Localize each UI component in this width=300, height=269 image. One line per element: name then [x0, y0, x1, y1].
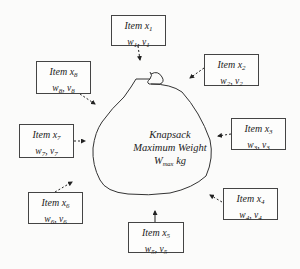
- item-box-1: Item x1 w1, v1: [111, 15, 166, 46]
- item-box-4: Item x4 w4, v4: [223, 188, 278, 220]
- item-box-7: Item x7 w7, v7: [19, 124, 74, 158]
- knapsack-diagram: Knapsack Maximum Weight Wmax kg Item x1 …: [0, 0, 300, 269]
- item-box-3: Item x3 w3, v3: [231, 118, 286, 150]
- item-box-8: Item x8 w8, v8: [36, 61, 91, 94]
- knapsack-capacity-value: Wmax kg: [120, 154, 220, 170]
- knapsack-title: Knapsack: [120, 128, 220, 141]
- arrow-item-2: [190, 68, 204, 78]
- knapsack-capacity-label: Maximum Weight: [120, 141, 220, 154]
- arrow-item-6: [55, 182, 72, 192]
- item-box-6: Item x6 w6, v6: [28, 192, 83, 224]
- arrow-item-4: [210, 195, 222, 202]
- item-box-2: Item x2 w2, v2: [204, 54, 259, 86]
- knapsack-label: Knapsack Maximum Weight Wmax kg: [120, 128, 220, 170]
- item-box-5: Item x5 w5, v5: [128, 222, 184, 253]
